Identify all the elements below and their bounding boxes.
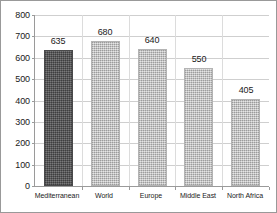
x-tick-label: Europe (140, 192, 162, 200)
y-tick-mark (32, 186, 35, 187)
y-axis: 0100200300400500600700800 (3, 1, 32, 212)
gridline-vertical (82, 15, 83, 186)
bar-value-label: 680 (98, 28, 113, 37)
x-tick-mark (82, 187, 83, 190)
y-tick-label: 0 (25, 182, 30, 191)
y-tick-mark (32, 58, 35, 59)
gridline-vertical (222, 15, 223, 186)
x-tick-mark (222, 187, 223, 190)
gridline-horizontal (35, 15, 269, 16)
x-tick-mark (269, 187, 270, 190)
y-tick-mark (32, 15, 35, 16)
bar-middle-east[interactable] (184, 68, 213, 186)
bar-world[interactable] (91, 41, 120, 186)
y-tick-label: 600 (15, 53, 30, 62)
x-tick-label: Mediterranean (35, 192, 80, 200)
bar-value-label: 640 (145, 36, 160, 45)
y-tick-mark (32, 79, 35, 80)
gridline-vertical (129, 15, 130, 186)
y-tick-mark (32, 143, 35, 144)
y-tick-label: 500 (15, 75, 30, 84)
y-tick-label: 400 (15, 96, 30, 105)
y-tick-label: 700 (15, 32, 30, 41)
y-tick-label: 300 (15, 117, 30, 126)
bar-europe[interactable] (138, 49, 167, 186)
x-tick-mark (129, 187, 130, 190)
x-tick-mark (175, 187, 176, 190)
bar-value-label: 405 (239, 86, 254, 95)
bar-value-label: 635 (51, 37, 66, 46)
bar-chart-figure: 0100200300400500600700800 63568064055040… (0, 0, 277, 213)
x-tick-label: World (95, 192, 113, 200)
y-tick-label: 100 (15, 160, 30, 169)
x-tick-label: Middle East (180, 192, 216, 200)
y-tick-mark (32, 165, 35, 166)
bar-north-africa[interactable] (231, 99, 260, 186)
y-tick-mark (32, 36, 35, 37)
y-tick-label: 200 (15, 139, 30, 148)
x-axis: MediterraneanWorldEuropeMiddle EastNorth… (34, 192, 269, 204)
gridline-vertical (175, 15, 176, 186)
bar-mediterranean[interactable] (44, 50, 73, 186)
y-tick-mark (32, 101, 35, 102)
y-tick-label: 800 (15, 11, 30, 20)
bar-value-label: 550 (192, 55, 207, 64)
x-tick-label: North Africa (227, 192, 263, 200)
plot-area: 635680640550405 (34, 15, 269, 187)
y-tick-mark (32, 122, 35, 123)
